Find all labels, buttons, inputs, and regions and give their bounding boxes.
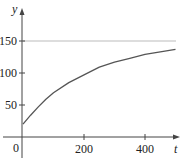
ticks: 50100150200400 [0,34,154,156]
x-tick-label: 200 [75,142,93,156]
chart: 50100150200400 y t 0 [0,0,182,162]
x-axis-arrow-icon [173,135,180,140]
series-line [23,49,176,124]
origin-label: 0 [13,141,19,155]
y-axis-label: y [11,2,18,16]
x-tick-label: 400 [136,142,154,156]
x-axis-label: t [174,142,178,156]
y-axis-arrow-icon [20,8,25,15]
y-tick-label: 50 [5,98,17,112]
y-tick-label: 150 [0,34,17,48]
data-curve [23,49,176,124]
y-tick-label: 100 [0,66,17,80]
axes [3,8,180,158]
